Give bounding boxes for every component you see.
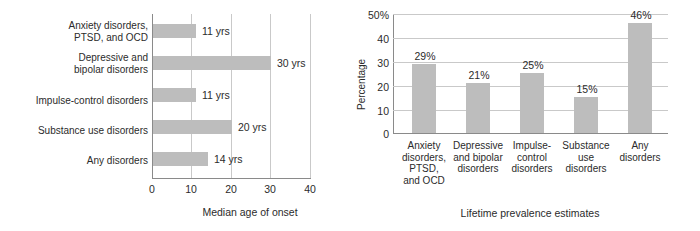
ytick-20: 20 — [354, 81, 389, 93]
value-label-anxiety: 29% — [410, 50, 440, 62]
value-label-substance-use: 15% — [572, 83, 602, 95]
value-label-any-disorders: 14 yrs — [214, 153, 243, 165]
bar-any-disorders — [153, 152, 208, 166]
value-label-impulse-control: 11 yrs — [202, 89, 230, 101]
bar-substance-use — [153, 120, 232, 134]
xtick-10: 10 — [181, 183, 201, 195]
cat-label-line: Impulse- — [504, 140, 560, 152]
value-label-impulse-control: 25% — [518, 59, 548, 71]
cat-label-line: disorders — [504, 163, 560, 175]
cat-label-substance-use: Substance use disorders — [556, 140, 616, 175]
xtick-20: 20 — [221, 183, 241, 195]
cat-label-line: control — [504, 152, 560, 164]
cat-label-line: disorders — [556, 163, 616, 175]
cat-label-line: disorders — [612, 152, 668, 164]
cat-label-anxiety: Anxiety disorders, PTSD, and OCD — [396, 140, 452, 186]
chart-lifetime-prevalence-estimates: Percentage 50% 40 30 20 10 0 29% 21% 25%… — [340, 0, 700, 231]
cat-label-line: Depressive — [448, 140, 508, 152]
cat-label-line: and OCD — [396, 175, 452, 187]
value-label-substance-use: 20 yrs — [238, 121, 267, 133]
cat-label-any-disorders: Any disorders — [8, 155, 148, 167]
bar-anxiety — [153, 24, 196, 38]
value-label-depressive: 21% — [464, 69, 494, 81]
cat-label-line: Substance — [556, 140, 616, 152]
value-label-anxiety: 11 yrs — [202, 25, 230, 37]
bar-depressive — [466, 83, 490, 133]
cat-label-impulse-control: Impulse-control disorders — [8, 95, 148, 107]
left-chart-x-axis-title: Median age of onset — [180, 206, 320, 218]
cat-label-line: Impulse-control disorders — [8, 95, 148, 107]
left-chart-x-axis — [152, 178, 311, 179]
ytick-10: 10 — [354, 105, 389, 117]
cat-label-line: disorders — [448, 163, 508, 175]
cat-label-line: Depressive and — [8, 52, 148, 64]
cat-label-depressive: Depressive and bipolar disorders — [8, 52, 148, 75]
cat-label-any-disorders: Any disorders — [612, 140, 668, 163]
cat-label-line: use — [556, 152, 616, 164]
ytick-50: 50% — [354, 9, 389, 21]
bar-impulse-control — [153, 88, 196, 102]
gridline-40 — [310, 14, 311, 178]
cat-label-anxiety: Anxiety disorders, PTSD, and OCD — [8, 20, 148, 43]
cat-label-line: and bipolar — [448, 152, 508, 164]
bar-anxiety — [412, 64, 436, 133]
cat-label-line: Anxiety — [396, 140, 452, 152]
cat-label-line: PTSD, and OCD — [8, 32, 148, 44]
gridline-30 — [270, 14, 271, 178]
chart-median-age-of-onset: Anxiety disorders, PTSD, and OCD Depress… — [0, 0, 340, 231]
two-panel-bar-chart-figure: Anxiety disorders, PTSD, and OCD Depress… — [0, 0, 700, 231]
ytick-0: 0 — [354, 128, 389, 140]
cat-label-line: disorders, — [396, 152, 452, 164]
cat-label-depressive: Depressive and bipolar disorders — [448, 140, 508, 175]
cat-label-substance-use: Substance use disorders — [8, 125, 148, 137]
cat-label-line: Substance use disorders — [8, 125, 148, 137]
value-label-any-disorders: 46% — [626, 9, 656, 21]
bar-substance-use — [574, 97, 598, 133]
ytick-40: 40 — [354, 33, 389, 45]
cat-label-impulse-control: Impulse- control disorders — [504, 140, 560, 175]
cat-label-line: Any — [612, 140, 668, 152]
bar-depressive — [153, 56, 271, 70]
xtick-40: 40 — [300, 183, 320, 195]
right-chart-x-axis-title: Lifetime prevalence estimates — [440, 207, 620, 219]
xtick-0: 0 — [142, 183, 162, 195]
cat-label-line: Anxiety disorders, — [8, 20, 148, 32]
cat-label-line: bipolar disorders — [8, 64, 148, 76]
ytick-30: 30 — [354, 57, 389, 69]
bar-impulse-control — [520, 73, 544, 133]
cat-label-line: Any disorders — [8, 155, 148, 167]
value-label-depressive: 30 yrs — [277, 57, 306, 69]
xtick-30: 30 — [260, 183, 280, 195]
cat-label-line: PTSD, — [396, 163, 452, 175]
right-chart-x-axis — [393, 133, 668, 134]
gridline-40 — [393, 38, 668, 39]
right-chart-y-axis — [393, 14, 394, 134]
bar-any-disorders — [628, 23, 652, 133]
